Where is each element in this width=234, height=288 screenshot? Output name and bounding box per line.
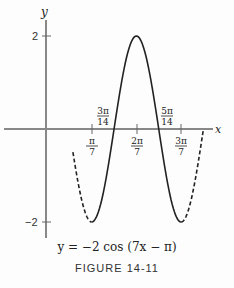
equation-caption: y = −2 cos (7x − π) [0,240,234,254]
y-axis-label: y [40,5,48,19]
x-tick-label-3: 3π7 [175,136,187,157]
figure-caption: FIGURE 14-11 [0,262,234,274]
curve-dashed-left [73,152,92,222]
x-tick-label-1: π7 [86,136,98,157]
svg-text:14: 14 [161,117,173,127]
x-tick-label-2: 2π7 [131,136,143,157]
svg-text:7: 7 [178,147,184,157]
y-tick-label-neg2: −2 [25,216,38,228]
svg-text:7: 7 [89,147,95,157]
zero-annotation-1: 3π14 [97,106,109,127]
x-axis-label: x [215,123,222,136]
y-tick-label-2: 2 [32,30,38,42]
figure: y x 2 −2 π72π73π73π145π14 y = −2 cos (7x… [0,0,234,288]
svg-text:π: π [89,136,95,146]
svg-text:3π: 3π [97,106,109,116]
svg-text:7: 7 [134,147,140,157]
svg-text:3π: 3π [175,136,187,146]
zero-annotation-2: 5π14 [161,106,173,127]
svg-text:14: 14 [97,117,109,127]
svg-text:2π: 2π [131,136,143,146]
svg-text:5π: 5π [161,106,173,116]
